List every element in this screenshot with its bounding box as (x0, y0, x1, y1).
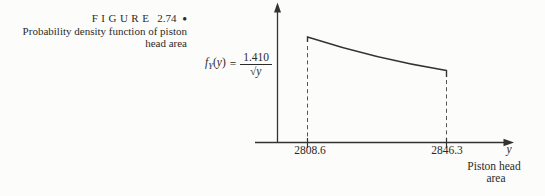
x-tick-label-left: 2808.6 (294, 144, 326, 156)
x-axis-sublabel-line2: area (486, 172, 505, 184)
x-axis-sublabel-line1: Piston head (467, 160, 521, 172)
figure-page: FIGURE 2.74 ● Probability density functi… (0, 0, 545, 196)
pdf-curve (308, 37, 447, 77)
x-tick-label-right: 2846.3 (431, 144, 463, 156)
pdf-plot: 2808.6 2846.3 y Piston head area (0, 0, 545, 196)
y-axis-arrow-icon (274, 3, 281, 13)
x-axis-label: y (505, 143, 512, 156)
